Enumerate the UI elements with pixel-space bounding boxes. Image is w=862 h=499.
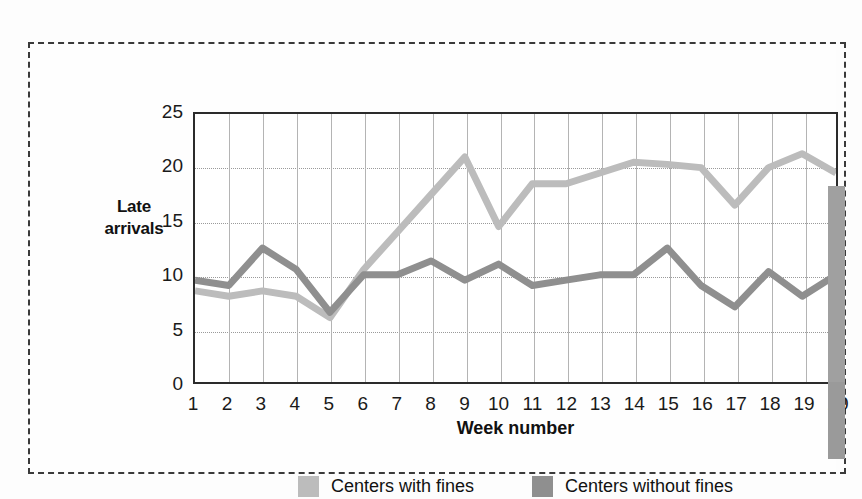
x-tick-label: 16 bbox=[685, 394, 719, 413]
y-tick-label: 0 bbox=[141, 374, 183, 393]
x-tick-label: 11 bbox=[515, 394, 549, 413]
chart-figure: Late arrivals 0510152025 123456789101112… bbox=[30, 44, 836, 470]
x-tick-label: 2 bbox=[210, 394, 244, 413]
series-line bbox=[195, 248, 836, 312]
x-tick-label: 8 bbox=[414, 394, 448, 413]
series-lines bbox=[195, 114, 836, 382]
plot-inner bbox=[195, 114, 836, 382]
legend-item[interactable]: Centers without fines bbox=[532, 476, 733, 497]
x-tick-label: 5 bbox=[312, 394, 346, 413]
series-line bbox=[195, 154, 836, 318]
scrollbar-thumb-lower[interactable] bbox=[828, 382, 845, 459]
y-tick-label: 5 bbox=[141, 320, 183, 339]
x-axis-title: Week number bbox=[193, 418, 838, 439]
legend-swatch-icon bbox=[298, 476, 319, 497]
screenshot-root: Late arrivals 0510152025 123456789101112… bbox=[0, 0, 862, 499]
y-tick-label: 20 bbox=[141, 156, 183, 175]
x-tick-label: 4 bbox=[278, 394, 312, 413]
x-tick-label: 1 bbox=[176, 394, 210, 413]
x-tick-label: 3 bbox=[244, 394, 278, 413]
y-tick-label: 10 bbox=[141, 265, 183, 284]
x-tick-label: 13 bbox=[583, 394, 617, 413]
legend-item[interactable]: Centers with fines bbox=[298, 476, 474, 497]
x-tick-label: 14 bbox=[617, 394, 651, 413]
legend-label: Centers without fines bbox=[565, 476, 733, 497]
x-tick-label: 15 bbox=[651, 394, 685, 413]
x-tick-label: 7 bbox=[380, 394, 414, 413]
y-tick-label: 25 bbox=[141, 102, 183, 121]
x-tick-label: 19 bbox=[787, 394, 821, 413]
legend-swatch-icon bbox=[532, 476, 553, 497]
x-tick-label: 6 bbox=[346, 394, 380, 413]
x-tick-label: 12 bbox=[549, 394, 583, 413]
chart-legend: Centers with finesCenters without fines bbox=[193, 476, 838, 497]
x-tick-label: 10 bbox=[482, 394, 516, 413]
x-tick-label: 9 bbox=[448, 394, 482, 413]
x-tick-label: 18 bbox=[753, 394, 787, 413]
legend-label: Centers with fines bbox=[331, 476, 474, 497]
y-tick-label: 15 bbox=[141, 211, 183, 230]
x-tick-label: 17 bbox=[719, 394, 753, 413]
plot-area bbox=[193, 112, 838, 384]
